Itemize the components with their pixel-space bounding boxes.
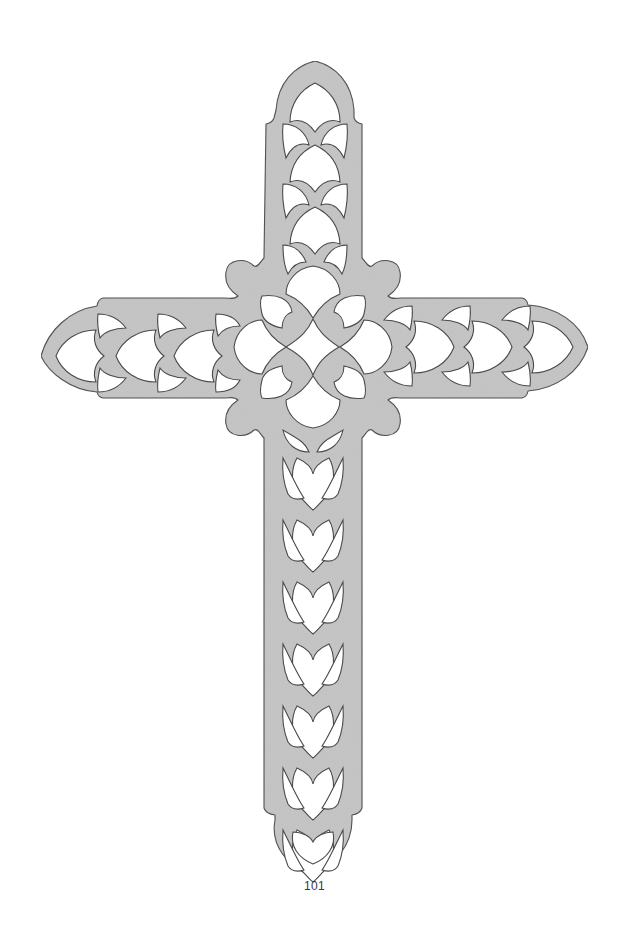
page-number: 101 [0,879,629,893]
cross-pattern [0,0,629,935]
pattern-page: 101 [0,0,629,935]
